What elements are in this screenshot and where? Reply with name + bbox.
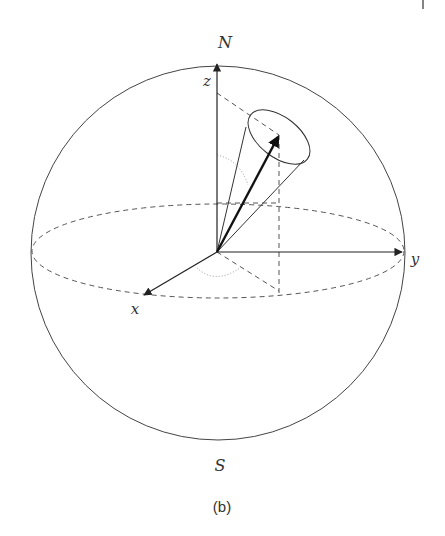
z-axis-label: z xyxy=(202,72,211,90)
y-axis-label: y xyxy=(410,250,420,268)
south-label: S xyxy=(215,456,226,475)
x-axis-label: x xyxy=(131,300,140,318)
azimuth-angle-arc xyxy=(197,268,240,277)
bloch-sphere-diagram: N z y x S (b) xyxy=(0,0,445,536)
polar-angle-arc xyxy=(217,155,248,185)
x-axis xyxy=(144,252,217,295)
spin-vector xyxy=(217,137,278,252)
north-label: N xyxy=(217,33,233,52)
precession-cone xyxy=(217,99,320,252)
figure-caption: (b) xyxy=(213,498,231,515)
